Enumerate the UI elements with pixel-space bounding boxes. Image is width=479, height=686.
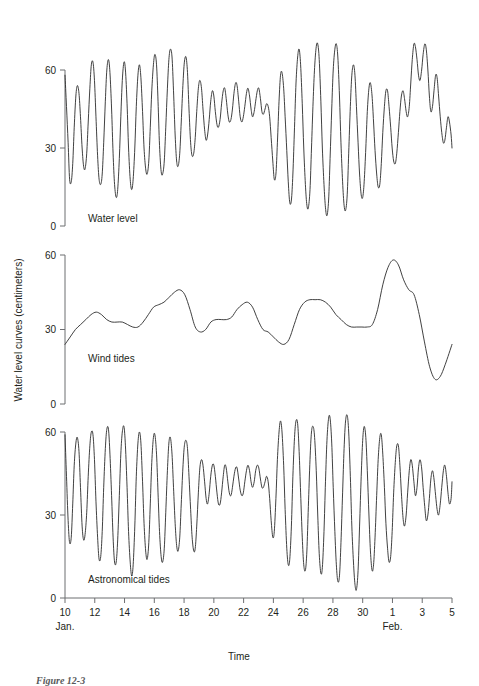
y-tick-label: 0 [50,593,56,604]
panel-water-level: 03060 Water level [45,43,452,232]
panel-astronomical-tides: 03060 Astronomical tides [45,415,452,604]
y-tick-label: 0 [50,399,56,410]
x-tick-label: 14 [119,607,131,618]
astronomical-tides-curve [65,415,452,591]
figure-container: 03060 Water level 03060 Wind tides 03060… [0,0,479,686]
x-tick-label: 22 [238,607,250,618]
x-tick-label: 12 [89,607,101,618]
y-tick-label: 60 [45,65,57,76]
x-tick-label: 16 [149,607,161,618]
panel-wind-tides: 03060 Wind tides [45,250,452,410]
y-tick-label: 0 [50,221,56,232]
x-month-label: Jan. [56,621,75,632]
panel-0-y-ticks [60,70,65,226]
y-tick-label: 30 [45,510,57,521]
x-axis-month-labels: Jan.Feb. [56,621,403,632]
x-tick-label: 18 [179,607,191,618]
x-tick-label: 24 [268,607,280,618]
x-tick-label: 20 [208,607,220,618]
x-tick-label: 1 [390,607,396,618]
x-tick-label: 10 [59,607,71,618]
x-tick-label: 3 [419,607,425,618]
x-axis: 1012141618202224262830135 Jan.Feb. Time [56,598,456,662]
chart-svg: 03060 Water level 03060 Wind tides 03060… [0,0,479,686]
panel-1-y-ticks [60,255,65,404]
panel-0-y-tick-labels: 03060 [45,65,57,232]
x-tick-label: 26 [298,607,310,618]
y-tick-label: 60 [45,427,57,438]
water-level-curve [65,43,452,216]
y-tick-label: 30 [45,143,57,154]
panel-label-astronomical-tides: Astronomical tides [88,574,170,585]
panel-2-y-ticks [60,432,65,598]
y-tick-label: 30 [45,324,57,335]
x-tick-label: 30 [357,607,369,618]
panel-1-y-tick-labels: 03060 [45,250,57,410]
x-month-label: Feb. [382,621,402,632]
y-axis-title: Water level curves (centimeters) [13,259,24,402]
x-axis-title: Time [228,651,250,662]
figure-caption: Figure 12-3 [35,675,85,686]
panel-label-water-level: Water level [88,213,138,224]
x-tick-label: 5 [449,607,455,618]
y-tick-label: 60 [45,250,57,261]
x-axis-ticks [65,598,452,603]
x-tick-label: 28 [327,607,339,618]
x-axis-tick-labels: 1012141618202224262830135 [59,607,455,618]
panel-2-y-tick-labels: 03060 [45,427,57,604]
panel-label-wind-tides: Wind tides [88,353,135,364]
